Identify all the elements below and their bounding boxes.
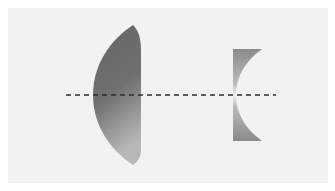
diagram-canvas: Converging and diverging lenses on an op… [0, 0, 335, 191]
lens-diagram [0, 0, 335, 191]
